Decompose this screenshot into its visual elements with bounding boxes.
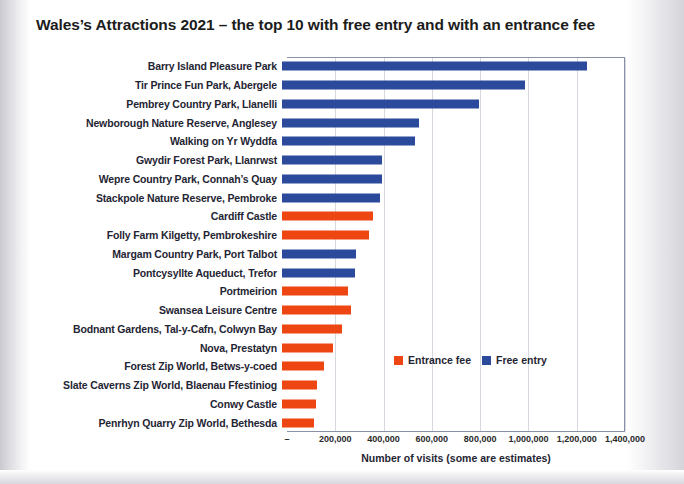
legend-item: Free entry <box>482 354 547 366</box>
x-tick-label: 200,000 <box>319 434 352 444</box>
category-label: Folly Farm Kilgetty, Pembrokeshire <box>36 229 282 241</box>
bar-entrance-fee <box>282 306 351 315</box>
category-label: Bodnant Gardens, Tal-y-Cafn, Colwyn Bay <box>36 323 282 335</box>
bar-entrance-fee <box>282 231 369 240</box>
gridline <box>625 58 626 431</box>
chart-row: Walking on Yr Wyddfa <box>36 132 625 151</box>
category-label: Wepre Country Park, Connah’s Quay <box>36 173 282 185</box>
bar-free-entry <box>282 81 525 90</box>
bar-track <box>282 132 625 151</box>
chart-row: Conwy Castle <box>36 395 625 414</box>
bar-entrance-fee <box>282 399 316 408</box>
chart-row: Swansea Leisure Centre <box>36 301 625 320</box>
bar-free-entry <box>282 249 356 258</box>
bar-rows: Barry Island Pleasure ParkTir Prince Fun… <box>36 57 625 432</box>
chart-title: Wales’s Attractions 2021 – the top 10 wi… <box>36 16 656 34</box>
bar-free-entry <box>282 99 479 108</box>
bar-track <box>282 57 625 76</box>
chart-row: Penrhyn Quarry Zip World, Bethesda <box>36 413 625 432</box>
x-tick-label: 600,000 <box>416 434 449 444</box>
category-label: Barry Island Pleasure Park <box>36 60 282 72</box>
category-label: Walking on Yr Wyddfa <box>36 135 282 147</box>
category-label: Conwy Castle <box>36 398 282 410</box>
bar-track <box>282 76 625 95</box>
x-tick-label: 800,000 <box>464 434 497 444</box>
category-label: Swansea Leisure Centre <box>36 304 282 316</box>
category-label: Margam Country Park, Port Talbot <box>36 248 282 260</box>
chart-row: Margam Country Park, Port Talbot <box>36 245 625 264</box>
bar-track <box>282 170 625 189</box>
legend-item: Entrance fee <box>394 354 471 366</box>
category-label: Gwydir Forest Park, Llanrwst <box>36 154 282 166</box>
category-label: Portmeirion <box>36 285 282 297</box>
bar-entrance-fee <box>282 381 317 390</box>
legend-label: Free entry <box>496 354 547 366</box>
chart-row: Folly Farm Kilgetty, Pembrokeshire <box>36 226 625 245</box>
chart-row: Newborough Nature Reserve, Anglesey <box>36 113 625 132</box>
bar-track <box>282 395 625 414</box>
bar-entrance-fee <box>282 324 342 333</box>
bar-track <box>282 188 625 207</box>
x-axis-title: Number of visits (some are estimates) <box>287 452 625 464</box>
chart-legend: Entrance feeFree entry <box>394 354 547 366</box>
bar-entrance-fee <box>282 418 314 427</box>
bar-track <box>282 226 625 245</box>
bar-track <box>282 376 625 395</box>
chart-row: Pembrey Country Park, Llanelli <box>36 95 625 114</box>
legend-label: Entrance fee <box>408 354 471 366</box>
legend-swatch-icon <box>394 356 403 365</box>
bar-track <box>282 301 625 320</box>
chart-row: Bodnant Gardens, Tal-y-Cafn, Colwyn Bay <box>36 320 625 339</box>
chart-row: Portmeirion <box>36 282 625 301</box>
x-tick-label: – <box>284 434 289 444</box>
bar-track <box>282 207 625 226</box>
bar-track <box>282 413 625 432</box>
x-tick-label: 1,200,000 <box>557 434 597 444</box>
bar-track <box>282 151 625 170</box>
category-label: Forest Zip World, Betws-y-coed <box>36 360 282 372</box>
bar-entrance-fee <box>282 287 348 296</box>
bar-entrance-fee <box>282 362 324 371</box>
bar-track <box>282 113 625 132</box>
page-edge-shadow-bottom <box>0 470 684 484</box>
chart-row: Barry Island Pleasure Park <box>36 57 625 76</box>
bar-free-entry <box>282 268 355 277</box>
chart-row: Pontcysyllte Aqueduct, Trefor <box>36 263 625 282</box>
bar-free-entry <box>282 62 587 71</box>
chart-row: Stackpole Nature Reserve, Pembroke <box>36 188 625 207</box>
category-label: Pembrey Country Park, Llanelli <box>36 98 282 110</box>
bar-free-entry <box>282 118 419 127</box>
x-tick-label: 1,400,000 <box>605 434 645 444</box>
x-axis-tick-labels: –200,000400,000600,000800,0001,000,0001,… <box>287 434 625 448</box>
chart-row: Tir Prince Fun Park, Abergele <box>36 76 625 95</box>
page-background: Wales’s Attractions 2021 – the top 10 wi… <box>0 0 684 484</box>
chart-row: Slate Caverns Zip World, Blaenau Ffestin… <box>36 376 625 395</box>
category-label: Cardiff Castle <box>36 210 282 222</box>
legend-swatch-icon <box>482 356 491 365</box>
chart-row: Cardiff Castle <box>36 207 625 226</box>
category-label: Stackpole Nature Reserve, Pembroke <box>36 192 282 204</box>
bar-track <box>282 245 625 264</box>
bar-free-entry <box>282 174 382 183</box>
bar-track <box>282 263 625 282</box>
x-tick-label: 1,000,000 <box>508 434 548 444</box>
bar-entrance-fee <box>282 212 373 221</box>
x-tick-label: 400,000 <box>367 434 400 444</box>
category-label: Nova, Prestatyn <box>36 342 282 354</box>
page-edge-shadow-right <box>626 0 684 484</box>
chart-row: Gwydir Forest Park, Llanrwst <box>36 151 625 170</box>
bar-track <box>282 320 625 339</box>
bar-free-entry <box>282 137 415 146</box>
bar-track <box>282 95 625 114</box>
category-label: Tir Prince Fun Park, Abergele <box>36 79 282 91</box>
category-label: Pontcysyllte Aqueduct, Trefor <box>36 267 282 279</box>
bar-free-entry <box>282 193 380 202</box>
page-edge-shadow-left <box>0 0 30 484</box>
category-label: Newborough Nature Reserve, Anglesey <box>36 117 282 129</box>
bar-entrance-fee <box>282 343 333 352</box>
bar-track <box>282 282 625 301</box>
category-label: Slate Caverns Zip World, Blaenau Ffestin… <box>36 379 282 391</box>
category-label: Penrhyn Quarry Zip World, Bethesda <box>36 417 282 429</box>
bar-free-entry <box>282 156 382 165</box>
chart-row: Wepre Country Park, Connah’s Quay <box>36 170 625 189</box>
